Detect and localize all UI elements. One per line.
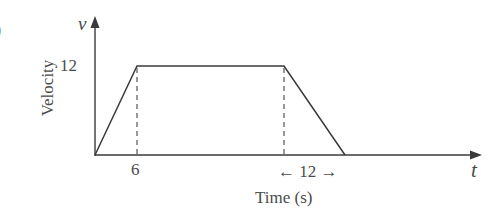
y-axis-symbol: v: [78, 13, 86, 35]
figure-label-partial: ): [0, 16, 1, 42]
x-axis-symbol: t: [471, 158, 477, 183]
velocity-time-graph: [0, 0, 498, 224]
y-tick-label: 12: [60, 56, 77, 76]
y-axis-label: Velocity: [38, 48, 58, 128]
y-axis-arrow-icon: [91, 16, 100, 28]
velocity-curve: [95, 66, 345, 155]
x-axis-label: Time (s): [255, 188, 312, 208]
x-tick-label: 6: [131, 160, 140, 180]
duration-annotation: ← 12 →: [278, 162, 338, 182]
